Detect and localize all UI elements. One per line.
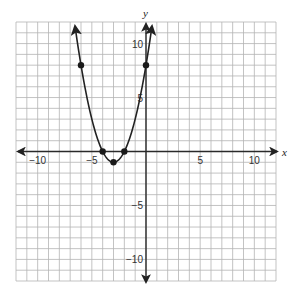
x-axis-label: x — [281, 146, 287, 158]
y-axis-label: y — [142, 7, 148, 19]
coordinate-plane: x y −10−5510105−5−10 — [0, 0, 295, 294]
data-point — [110, 159, 116, 165]
y-tick-label: −10 — [126, 254, 143, 265]
x-tick-label: 10 — [249, 155, 261, 166]
data-point — [99, 148, 105, 154]
x-tick-label: 5 — [197, 155, 203, 166]
x-tick-label: −10 — [29, 155, 46, 166]
data-point — [78, 62, 84, 68]
data-point — [143, 62, 149, 68]
y-tick-label: −5 — [132, 200, 144, 211]
y-tick-label: 10 — [132, 39, 144, 50]
axes: x y — [18, 7, 287, 282]
x-tick-label: −5 — [86, 155, 98, 166]
data-point — [121, 148, 127, 154]
